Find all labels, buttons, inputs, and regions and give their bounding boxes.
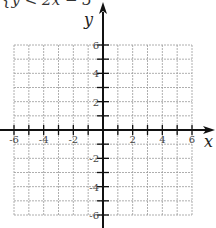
x-tick-label: -6 xyxy=(9,134,19,145)
x-tick-label: 6 xyxy=(189,134,195,145)
y-tick-label: 4 xyxy=(93,68,99,79)
x-tick-label: -2 xyxy=(68,134,78,145)
y-tick-label: -6 xyxy=(89,210,99,221)
axes xyxy=(0,2,215,228)
y-tick-label: 6 xyxy=(93,40,99,51)
y-tick-label: -4 xyxy=(89,182,99,193)
x-axis-label: x xyxy=(204,132,213,151)
y-tick-label: -2 xyxy=(89,153,99,164)
x-tick-label: 2 xyxy=(129,134,135,145)
x-tick-label: 4 xyxy=(159,134,165,145)
y-axis-label: y xyxy=(83,10,94,29)
y-tick-label: 2 xyxy=(93,97,99,108)
coordinate-grid: -6-4-2246642-2-4-6xy xyxy=(0,0,216,228)
x-tick-label: -4 xyxy=(39,134,49,145)
